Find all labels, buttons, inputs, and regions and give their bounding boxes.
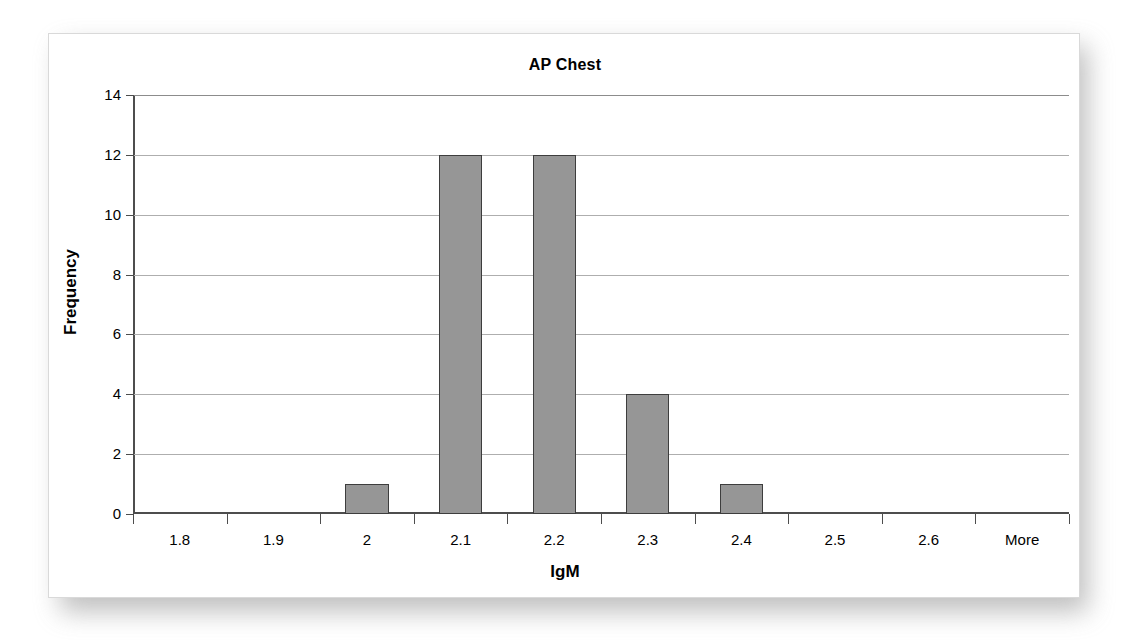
gridline xyxy=(133,155,1069,156)
y-axis-label: 12 xyxy=(81,147,121,162)
gridline xyxy=(133,95,1069,96)
gridline xyxy=(133,215,1069,216)
x-axis-tick xyxy=(133,514,134,524)
plot-area: 02468101214 1.81.922.12.22.32.42.52.6Mor… xyxy=(133,95,1069,514)
x-axis-tick xyxy=(227,514,228,524)
y-axis-label: 4 xyxy=(81,386,121,401)
x-axis-label: 1.9 xyxy=(227,532,321,547)
y-axis-tick xyxy=(126,215,134,216)
gridline xyxy=(133,334,1069,335)
chart-title: AP Chest xyxy=(49,56,1081,74)
x-axis-tick xyxy=(975,514,976,524)
y-axis-label: 8 xyxy=(81,267,121,282)
y-axis-tick xyxy=(126,275,134,276)
x-axis-title: IgM xyxy=(49,562,1081,582)
screenshot-page: AP Chest Frequency IgM 02468101214 1.81.… xyxy=(0,0,1139,644)
x-axis-label: 2.3 xyxy=(601,532,695,547)
x-axis-label: More xyxy=(975,532,1069,547)
y-axis-title: Frequency xyxy=(61,212,81,372)
y-axis-tick xyxy=(126,95,134,96)
y-axis-tick xyxy=(126,155,134,156)
bar xyxy=(439,155,482,514)
y-axis-label: 0 xyxy=(81,506,121,521)
y-axis-label: 2 xyxy=(81,446,121,461)
bar xyxy=(720,484,763,514)
y-axis-tick xyxy=(126,394,134,395)
x-axis-label: 2.1 xyxy=(414,532,508,547)
x-axis-label: 1.8 xyxy=(133,532,227,547)
bar xyxy=(626,394,669,514)
x-axis-tick xyxy=(788,514,789,524)
x-axis-label: 2.2 xyxy=(507,532,601,547)
x-axis-label: 2 xyxy=(320,532,414,547)
gridline xyxy=(133,454,1069,455)
chart-card: AP Chest Frequency IgM 02468101214 1.81.… xyxy=(48,33,1080,598)
x-axis-tick xyxy=(1069,514,1070,524)
x-axis-tick xyxy=(601,514,602,524)
plot-frame xyxy=(133,95,1069,514)
gridline xyxy=(133,394,1069,395)
x-axis-tick xyxy=(882,514,883,524)
x-axis-tick xyxy=(414,514,415,524)
y-axis-label: 10 xyxy=(81,207,121,222)
y-axis-label: 14 xyxy=(81,87,121,102)
x-axis-label: 2.4 xyxy=(695,532,789,547)
bar xyxy=(345,484,388,514)
y-axis-label: 6 xyxy=(81,326,121,341)
y-axis-tick xyxy=(126,454,134,455)
x-axis-tick xyxy=(507,514,508,524)
x-axis-label: 2.6 xyxy=(882,532,976,547)
x-axis-label: 2.5 xyxy=(788,532,882,547)
x-axis-tick xyxy=(320,514,321,524)
y-axis-tick xyxy=(126,334,134,335)
bar xyxy=(533,155,576,514)
gridline xyxy=(133,275,1069,276)
x-axis-tick xyxy=(695,514,696,524)
